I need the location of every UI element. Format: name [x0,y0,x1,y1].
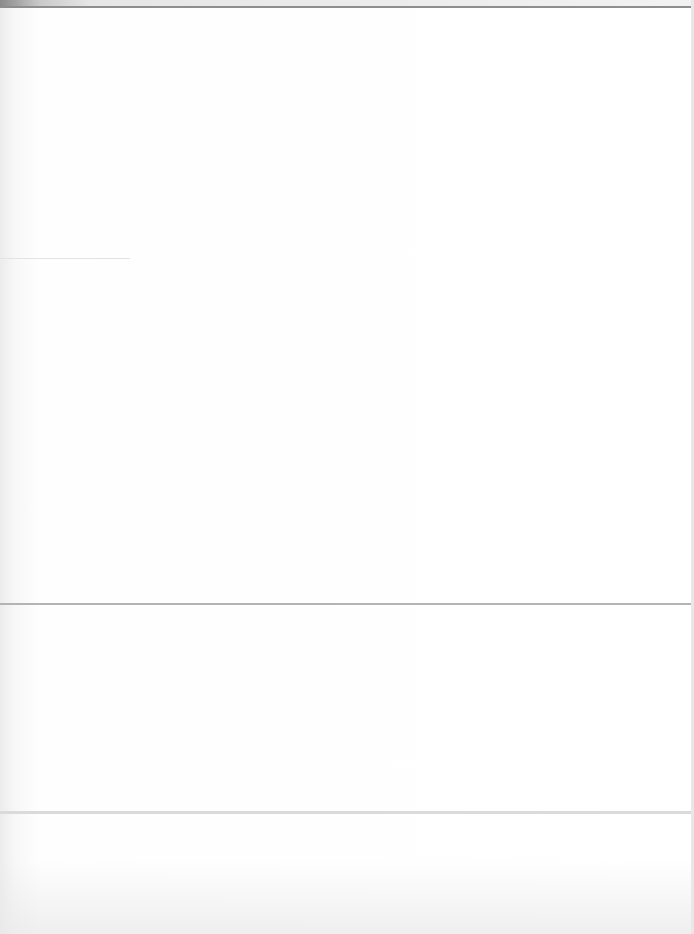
document-section-2 [0,259,694,603]
page-bottom-shadow [0,860,694,934]
document-section-3 [0,605,694,811]
scanned-document-page [0,0,694,934]
document-section-1 [0,8,694,258]
